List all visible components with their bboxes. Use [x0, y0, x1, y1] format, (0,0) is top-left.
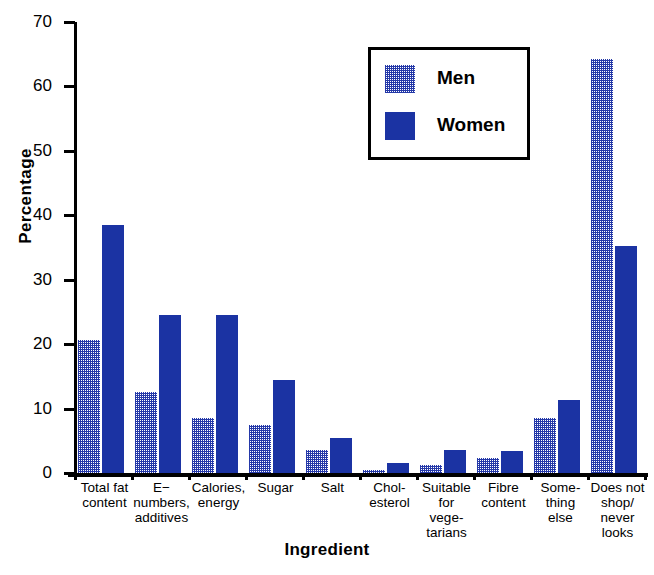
bar-men	[591, 59, 613, 473]
bar-men	[363, 470, 385, 473]
y-tick-10	[64, 408, 75, 411]
legend-swatch-men-icon	[385, 65, 415, 93]
y-tick-60	[64, 85, 75, 88]
x-tick	[245, 473, 248, 480]
x-tick	[530, 473, 533, 480]
x-label-line: Does not	[580, 480, 654, 495]
x-axis-line	[68, 473, 648, 477]
x-label-line: looks	[580, 525, 654, 540]
bar-women	[444, 450, 466, 473]
plot-area: 010203040506070	[76, 22, 646, 473]
y-tick-label-0: 0	[12, 464, 52, 481]
y-tick-20	[64, 343, 75, 346]
bar-women	[159, 315, 181, 473]
bar-men	[135, 392, 157, 473]
y-tick-label-20: 20	[12, 335, 52, 352]
bar-men	[306, 450, 328, 473]
x-tick	[416, 473, 419, 480]
x-tick	[74, 473, 77, 480]
x-label-line: additives	[124, 510, 199, 525]
bar-men	[420, 465, 442, 473]
bar-women	[558, 400, 580, 473]
bar-group	[190, 22, 247, 473]
x-tick	[302, 473, 305, 480]
x-label-line: never	[580, 510, 654, 525]
bar-group	[133, 22, 190, 473]
y-tick-label-50: 50	[12, 142, 52, 159]
x-label-line: tarians	[409, 525, 484, 540]
bar-men	[78, 340, 100, 473]
x-label: Does notshop/neverlooks	[580, 480, 654, 540]
x-tick	[644, 473, 647, 480]
bar-women	[102, 225, 124, 473]
bar-women	[216, 315, 238, 473]
bar-women	[387, 463, 409, 473]
legend-label-men: Men	[437, 67, 475, 89]
y-tick-label-60: 60	[12, 77, 52, 94]
bar-men	[477, 458, 499, 473]
y-tick-40	[64, 214, 75, 217]
y-tick-label-30: 30	[12, 271, 52, 288]
bar-chart: Percentage 010203040506070 Total fatcont…	[0, 0, 654, 575]
bar-women	[615, 246, 637, 473]
y-tick-70	[64, 21, 75, 24]
bar-women	[330, 438, 352, 473]
legend: Men Women	[368, 47, 530, 160]
x-label-line: shop/	[580, 495, 654, 510]
x-tick	[473, 473, 476, 480]
y-tick-label-10: 10	[12, 400, 52, 417]
x-tick	[359, 473, 362, 480]
x-tick	[188, 473, 191, 480]
x-tick	[131, 473, 134, 480]
bar-men	[534, 418, 556, 473]
bar-group	[532, 22, 589, 473]
bar-group	[304, 22, 361, 473]
legend-label-women: Women	[437, 114, 505, 136]
bar-men	[249, 425, 271, 473]
y-tick-label-40: 40	[12, 206, 52, 223]
bar-men	[192, 418, 214, 473]
bar-series-container	[76, 22, 646, 473]
bar-group	[589, 22, 646, 473]
y-tick-30	[64, 279, 75, 282]
bar-group	[247, 22, 304, 473]
bar-women	[501, 451, 523, 473]
x-label-line: energy	[181, 495, 256, 510]
legend-swatch-women-icon	[385, 112, 415, 140]
y-tick-50	[64, 150, 75, 153]
bar-group	[76, 22, 133, 473]
bar-women	[273, 380, 295, 473]
y-tick-label-70: 70	[12, 13, 52, 30]
x-tick	[587, 473, 590, 480]
x-label-line: vege-	[409, 510, 484, 525]
x-axis-title: Ingredient	[0, 540, 654, 560]
